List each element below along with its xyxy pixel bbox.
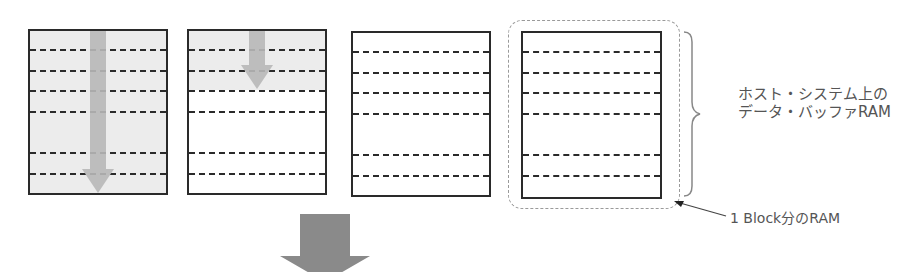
ram-block-2 <box>187 29 327 195</box>
ram-block-3 <box>351 31 491 197</box>
row-divider <box>353 154 489 156</box>
row-divider <box>353 51 489 53</box>
down-arrow-icon <box>30 31 166 193</box>
row-divider <box>353 72 489 74</box>
ram-block-4 <box>521 31 662 199</box>
row-divider <box>523 92 660 94</box>
row-divider <box>523 154 660 156</box>
row-divider <box>353 92 489 94</box>
host-buffer-label-line2: データ・バッファRAM <box>738 103 891 121</box>
curly-brace-icon <box>680 30 710 200</box>
ram-block-1 <box>28 29 168 195</box>
one-block-ram-label: 1 Block分のRAM <box>730 209 840 227</box>
row-divider <box>523 51 660 53</box>
row-divider <box>523 113 660 115</box>
down-arrow-icon <box>189 31 325 193</box>
host-buffer-label-line1: ホスト・システム上の <box>738 85 891 103</box>
row-divider <box>353 175 489 177</box>
row-divider <box>523 175 660 177</box>
leader-arrow-icon <box>670 200 730 220</box>
host-buffer-label: ホスト・システム上の データ・バッファRAM <box>738 85 891 121</box>
row-divider <box>353 113 489 115</box>
down-arrow-icon <box>276 212 372 272</box>
row-divider <box>523 72 660 74</box>
